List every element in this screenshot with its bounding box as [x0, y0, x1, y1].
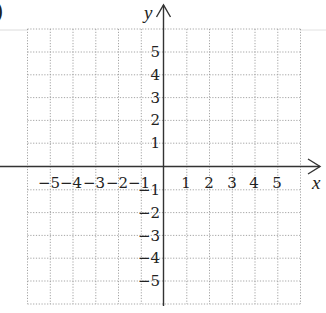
x-tick: −5	[38, 174, 60, 192]
x-tick: 2	[204, 174, 214, 192]
y-tick: −5	[138, 272, 160, 290]
x-tick: −4	[60, 174, 82, 192]
y-tick: 5	[150, 43, 160, 61]
axes	[0, 5, 320, 306]
x-tick: 3	[227, 174, 237, 192]
coordinate-plane: ) y x −5	[0, 0, 326, 313]
y-tick: −3	[138, 227, 160, 245]
x-tick: 1	[181, 174, 191, 192]
x-tick: 4	[249, 174, 259, 192]
y-tick: −4	[138, 249, 160, 267]
x-tick: 5	[272, 174, 282, 192]
y-tick: 3	[150, 89, 160, 107]
y-axis-label: y	[142, 2, 153, 23]
y-tick: 1	[150, 134, 160, 152]
x-axis-label: x	[311, 172, 321, 193]
y-tick: −2	[138, 204, 160, 222]
x-tick: −2	[106, 174, 128, 192]
y-tick: 4	[150, 66, 160, 84]
y-tick: 2	[150, 111, 160, 129]
x-tick: −3	[83, 174, 105, 192]
y-tick: −1	[138, 181, 160, 199]
corner-glyph: )	[0, 0, 4, 24]
